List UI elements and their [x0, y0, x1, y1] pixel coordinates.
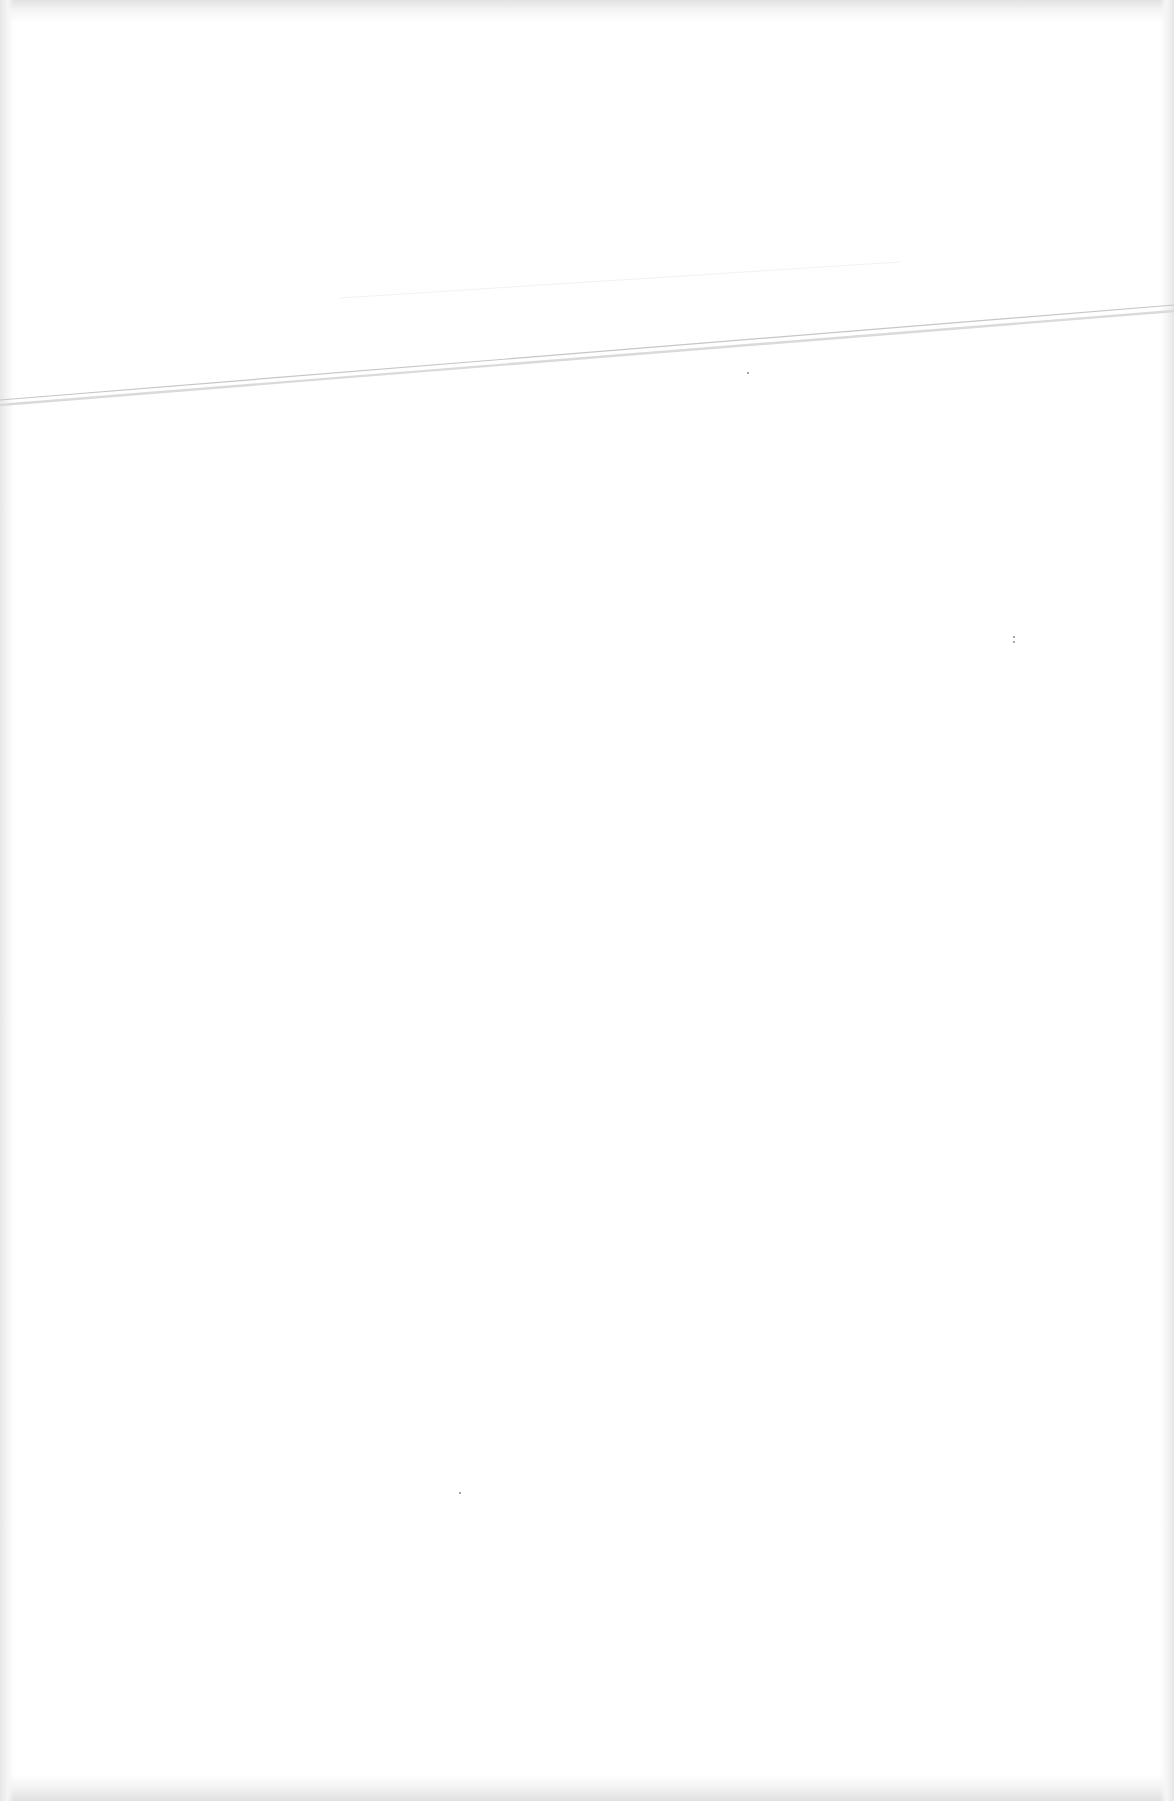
dust-speck: [459, 1492, 461, 1494]
dust-speck: [747, 372, 749, 374]
dust-speck: [1013, 641, 1015, 643]
scanned-page: [0, 0, 1174, 1801]
fold-line: [0, 0, 1174, 1801]
dust-speck: [1013, 636, 1015, 638]
